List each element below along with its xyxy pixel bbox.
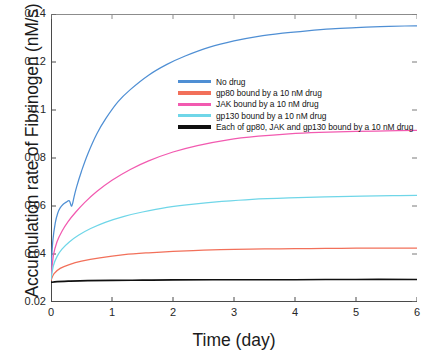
x-tick-label: 4 xyxy=(283,306,307,318)
legend-swatch-jak xyxy=(178,103,211,106)
plot-area xyxy=(51,14,417,302)
legend-label: JAK bound by a 10 nM drug xyxy=(216,99,319,109)
y-axis-title: Accumulation rate of Fibrinogen (nM/s) xyxy=(22,1,43,301)
x-axis-title: Time (day) xyxy=(51,330,417,351)
series-canvas xyxy=(51,14,417,302)
x-tick-label: 2 xyxy=(161,306,185,318)
legend-swatch-no-drug xyxy=(178,80,211,83)
legend-item: No drug xyxy=(178,76,413,87)
legend-label: Each of gp80, JAK and gp130 bound by a 1… xyxy=(216,122,413,132)
legend-item: gp80 bound by a 10 nM drug xyxy=(178,87,413,98)
legend-item: JAK bound by a 10 nM drug xyxy=(178,99,413,110)
legend-item: Each of gp80, JAK and gp130 bound by a 1… xyxy=(178,122,413,133)
legend-label: No drug xyxy=(216,77,245,87)
x-tick-label: 5 xyxy=(344,306,368,318)
x-tick-label: 6 xyxy=(405,306,425,318)
x-tick-label: 0 xyxy=(39,306,63,318)
x-tick-label: 1 xyxy=(100,306,124,318)
legend-item: gp130 bound by a 10 nM drug xyxy=(178,110,413,121)
chart-legend: No drug gp80 bound by a 10 nM drug JAK b… xyxy=(178,76,413,133)
legend-swatch-gp130 xyxy=(178,114,211,117)
x-tick-label: 3 xyxy=(222,306,246,318)
legend-label: gp130 bound by a 10 nM drug xyxy=(216,111,326,121)
legend-label: gp80 bound by a 10 nM drug xyxy=(216,88,322,98)
legend-swatch-gp80 xyxy=(178,91,211,94)
legend-swatch-all-bound xyxy=(178,125,211,129)
